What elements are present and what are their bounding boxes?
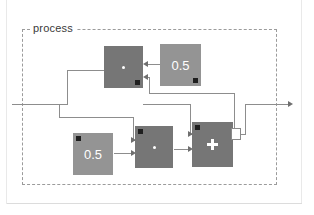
wire-fb2-vert — [149, 77, 150, 93]
multiply-block-bottom[interactable] — [135, 126, 173, 168]
wire-multop-out — [143, 104, 191, 105]
junction-box[interactable] — [231, 128, 241, 140]
arrow-output-port — [288, 101, 293, 107]
page-rule — [7, 203, 302, 204]
multiply-symbol-icon — [153, 146, 156, 149]
wire-feedback-to-multop — [67, 70, 105, 71]
arrow-fb2-to-multop — [143, 74, 148, 80]
wire-input-main — [12, 104, 59, 105]
sum-block[interactable] — [192, 122, 233, 167]
plus-symbol-icon — [207, 139, 218, 150]
wire-output-main — [245, 104, 291, 105]
port-marker-icon — [193, 78, 198, 83]
wire-feedback-up — [67, 70, 68, 105]
port-marker-icon — [76, 136, 81, 141]
subsystem-label: process — [30, 22, 76, 35]
wire-consttop-to-multop — [146, 64, 161, 65]
port-marker-icon — [195, 125, 200, 130]
multiply-symbol-icon — [122, 66, 125, 69]
multiply-block-top[interactable] — [104, 46, 143, 88]
wire-input-branch-right — [59, 117, 134, 118]
arrow-consttop-to-multop — [143, 61, 148, 67]
wire-junction-up — [245, 104, 246, 134]
constant-value-bottom: 0.5 — [84, 148, 102, 161]
wire-input-branch-down — [59, 104, 60, 118]
port-marker-icon — [138, 129, 143, 134]
wire-fb2-horiz — [149, 93, 235, 94]
wire-fb2-from-junction — [234, 93, 235, 128]
constant-block-bottom[interactable]: 0.5 — [73, 133, 113, 175]
diagram-canvas: process 0.5 0.5 — [0, 0, 314, 215]
port-marker-icon — [135, 80, 140, 85]
constant-block-top[interactable]: 0.5 — [160, 44, 201, 86]
constant-value-top: 0.5 — [171, 59, 189, 72]
wire-junction-to-out — [241, 134, 246, 135]
